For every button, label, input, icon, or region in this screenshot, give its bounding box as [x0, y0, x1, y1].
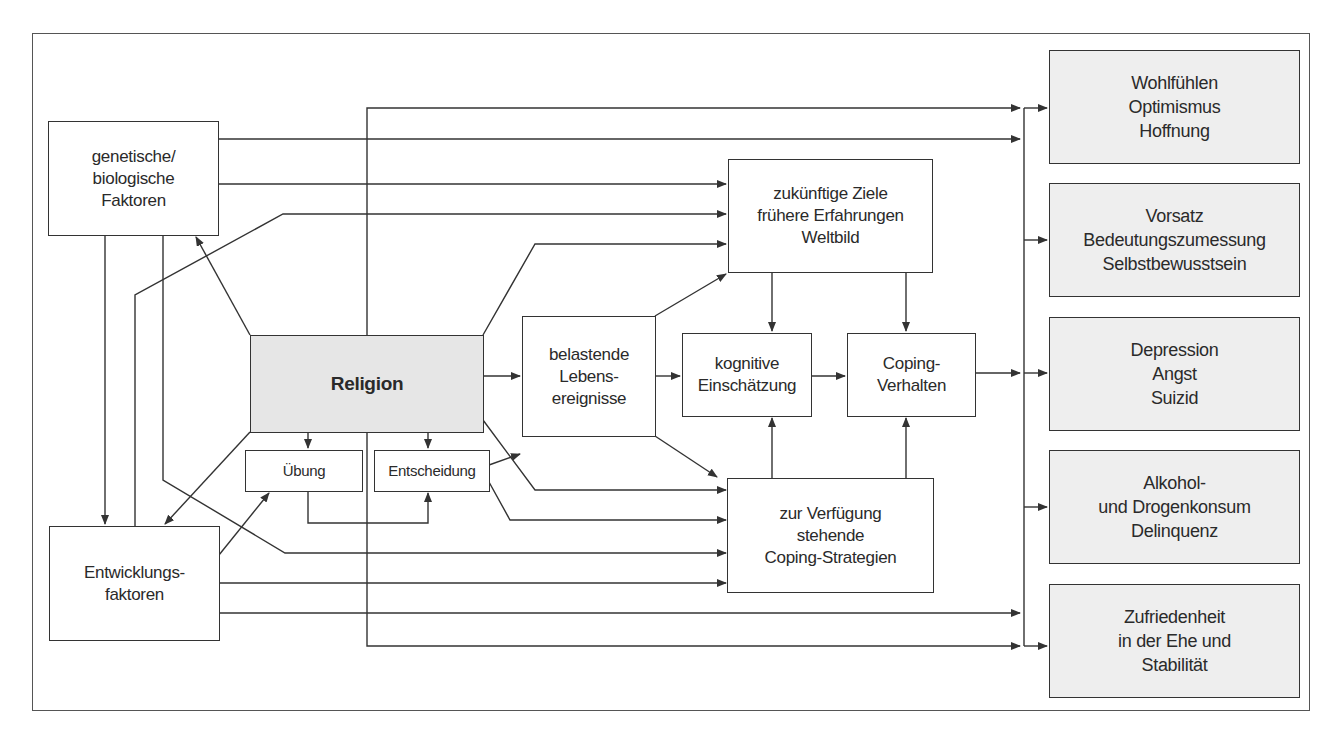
outcome-label: in der Ehe und — [1118, 629, 1231, 653]
outcome-depression: Depression Angst Suizid — [1049, 317, 1300, 431]
node-cognitive-appraisal: kognitive Einschätzung — [682, 333, 812, 417]
outcome-label: Alkohol- — [1143, 471, 1206, 495]
node-label: Lebens- — [559, 366, 618, 388]
outcome-label: Stabilität — [1141, 653, 1207, 677]
node-religion: Religion — [250, 335, 484, 433]
node-available-coping-strategies: zur Verfügung stehende Coping-Strategien — [727, 478, 934, 593]
node-genetic-factors: genetische/ biologische Faktoren — [48, 121, 219, 236]
node-goals-experiences-worldview: zukünftige Ziele frühere Erfahrungen Wel… — [728, 159, 933, 273]
outcome-label: Wohlfühlen — [1131, 71, 1218, 95]
node-label: Einschätzung — [698, 375, 796, 397]
outcome-label: Hoffnung — [1139, 119, 1209, 143]
node-label: zukünftige Ziele — [773, 183, 887, 205]
node-label: genetische/ — [92, 146, 176, 168]
node-coping-behavior: Coping- Verhalten — [847, 333, 976, 417]
node-label: faktoren — [105, 584, 164, 606]
outcome-label: Zufriedenheit — [1124, 605, 1225, 629]
outcome-label: Vorsatz — [1146, 204, 1204, 228]
node-decision: Entscheidung — [374, 450, 490, 492]
outcome-label: Bedeutungszumessung — [1083, 228, 1265, 252]
outcome-label: Optimismus — [1128, 95, 1220, 119]
node-label: ereignisse — [552, 388, 627, 410]
node-label: biologische — [93, 168, 175, 190]
outcome-label: Delinquenz — [1131, 519, 1218, 543]
node-label: Religion — [331, 373, 404, 395]
outcome-label: Depression — [1130, 338, 1218, 362]
outcome-substance-use: Alkohol- und Drogenkonsum Delinquenz — [1049, 450, 1300, 564]
node-label: frühere Erfahrungen — [757, 205, 903, 227]
outcome-label: Suizid — [1151, 386, 1198, 410]
node-label: belastende — [549, 344, 629, 366]
node-label: Coping-Strategien — [765, 547, 897, 569]
node-label: kognitive — [715, 353, 779, 375]
outcome-label: und Drogenkonsum — [1098, 495, 1250, 519]
node-label: stehende — [797, 525, 865, 547]
node-label: Verhalten — [877, 375, 946, 397]
node-label: zur Verfügung — [780, 503, 882, 525]
node-label: Entwicklungs- — [84, 562, 185, 584]
node-label: Entscheidung — [388, 462, 475, 480]
node-label: Faktoren — [101, 190, 166, 212]
node-label: Weltbild — [802, 227, 860, 249]
node-stressful-life-events: belastende Lebens- ereignisse — [522, 316, 656, 437]
outcome-wellbeing: Wohlfühlen Optimismus Hoffnung — [1049, 50, 1300, 164]
outcome-marital-satisfaction: Zufriedenheit in der Ehe und Stabilität — [1049, 584, 1300, 698]
outcome-purpose: Vorsatz Bedeutungszumessung Selbstbewuss… — [1049, 183, 1300, 297]
outcome-label: Selbstbewusstsein — [1103, 252, 1247, 276]
node-development-factors: Entwicklungs- faktoren — [49, 526, 220, 641]
node-label: Übung — [283, 462, 326, 480]
outcome-label: Angst — [1152, 362, 1197, 386]
node-label: Coping- — [883, 353, 940, 375]
node-practice: Übung — [245, 450, 363, 492]
